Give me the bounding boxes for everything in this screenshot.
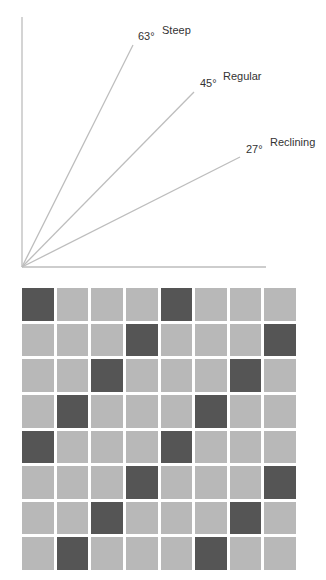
tile-light [161,395,193,428]
tile-light [22,466,54,499]
tile-light [126,537,158,570]
regular-name-label: Regular [223,70,262,82]
reclining-name-label: Reclining [270,136,315,148]
tile-light [195,324,227,357]
tile-dark [126,466,158,499]
tile-light [126,502,158,535]
steep-degree-label: 63° [138,30,155,42]
tile-light [57,324,89,357]
tile-light [91,537,123,570]
tile-light [264,502,296,535]
tile-light [195,431,227,464]
tile-light [264,395,296,428]
tile-light [91,431,123,464]
steep-name-label: Steep [162,24,191,36]
tile-dark [91,359,123,392]
tile-light [57,502,89,535]
angle-diagram: 63° Steep 45° Regular 27° Reclining [0,0,326,280]
tile-light [22,359,54,392]
tile-light [91,466,123,499]
tile-light [230,288,262,321]
tile-dark [22,431,54,464]
tile-light [161,502,193,535]
regular-degree-label: 45° [200,77,217,89]
tile-dark [57,537,89,570]
tile-light [195,502,227,535]
tile-dark [195,395,227,428]
tile-dark [57,395,89,428]
tile-light [126,288,158,321]
tile-dark [264,324,296,357]
tile-light [126,359,158,392]
tile-dark [161,288,193,321]
tile-dark [161,431,193,464]
tile-dark [91,502,123,535]
tile-light [195,466,227,499]
reclining-ray [22,157,240,267]
tile-light [22,502,54,535]
steep-ray [22,45,133,267]
tile-light [230,466,262,499]
tile-light [91,395,123,428]
tile-light [230,537,262,570]
tile-light [264,288,296,321]
tile-light [264,359,296,392]
tile-light [264,537,296,570]
tile-light [57,288,89,321]
tile-light [57,466,89,499]
tile-light [126,395,158,428]
tile-light [161,466,193,499]
tile-light [22,537,54,570]
tile-light [230,395,262,428]
tile-light [161,324,193,357]
reclining-degree-label: 27° [246,143,263,155]
tile-light [126,431,158,464]
tile-light [161,359,193,392]
tile-light [91,288,123,321]
regular-ray [22,92,194,267]
tile-dark [195,537,227,570]
tile-light [22,395,54,428]
tile-light [264,431,296,464]
tile-light [195,288,227,321]
tile-light [230,324,262,357]
tile-light [161,537,193,570]
tile-light [57,359,89,392]
tile-grid [22,288,296,570]
tile-light [230,431,262,464]
tile-dark [264,466,296,499]
tile-dark [230,502,262,535]
tile-light [22,324,54,357]
tile-light [57,431,89,464]
tile-light [91,324,123,357]
tile-light [195,359,227,392]
tile-dark [22,288,54,321]
tile-dark [126,324,158,357]
tile-dark [230,359,262,392]
